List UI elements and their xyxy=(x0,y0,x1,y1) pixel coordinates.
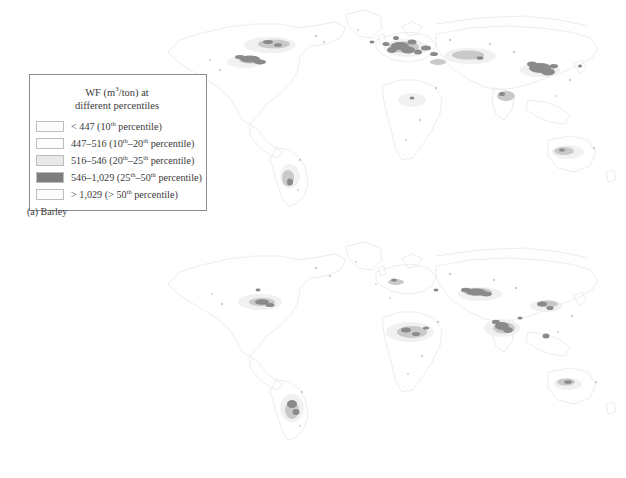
legend-label-tail2: percentile) xyxy=(148,156,194,167)
legend-label-tail: percentile) xyxy=(132,190,178,201)
map-wf-class-dark xyxy=(235,36,582,186)
legend-label-tail: percentile) xyxy=(116,122,162,133)
legend-title-suffix: /ton) at xyxy=(119,87,149,98)
world-map-barley xyxy=(150,0,626,210)
legend-label-tail2: percentile) xyxy=(156,173,202,184)
legend-label-text: < 447 (10 xyxy=(71,122,111,133)
legend-label-tail2: percentile) xyxy=(148,139,194,150)
map-wf-class-mid xyxy=(239,40,574,187)
legend-label-text: 447–516 (10 xyxy=(71,139,123,150)
figure-panel-cotton: WF (m3/ton) at different percentiles < 7… xyxy=(0,232,626,478)
world-map-barley-svg xyxy=(150,0,626,210)
legend-title-barley: WF (m3/ton) at different percentiles xyxy=(36,83,198,112)
legend-row: 516–546 (20th–25th percentile) xyxy=(36,152,198,169)
legend-label: < 447 (10th percentile) xyxy=(71,118,162,133)
legend-label: 546–1,029 (25th–50th percentile) xyxy=(71,169,202,184)
legend-rows-barley: < 447 (10th percentile) 447–516 (10th–20… xyxy=(36,118,198,203)
legend-title-prefix: WF (m xyxy=(85,87,115,98)
legend-label-text: > 1,029 (> 50 xyxy=(71,190,127,201)
map-landmasses-light xyxy=(168,242,616,440)
legend-swatch xyxy=(36,138,64,149)
map-landmasses-light xyxy=(168,10,616,206)
map-wf-class-dark xyxy=(255,278,572,415)
figure-panel-barley: WF (m3/ton) at different percentiles < 4… xyxy=(0,0,626,228)
legend-swatch xyxy=(36,172,64,183)
legend-label: 516–546 (20th–25th percentile) xyxy=(71,152,194,167)
legend-row: > 1,029 (> 50th percentile) xyxy=(36,186,198,203)
legend-barley: WF (m3/ton) at different percentiles < 4… xyxy=(29,74,207,211)
legend-swatch xyxy=(36,121,64,132)
world-map-cotton-svg xyxy=(150,232,626,447)
legend-label: > 1,029 (> 50th percentile) xyxy=(71,186,178,201)
legend-label-tail: –25 xyxy=(128,156,143,167)
legend-swatch xyxy=(36,155,64,166)
world-map-cotton xyxy=(150,232,626,447)
legend-title-line2: different percentiles xyxy=(75,100,159,111)
legend-row: < 447 (10th percentile) xyxy=(36,118,198,135)
legend-label-tail: –50 xyxy=(136,173,151,184)
legend-row: 546–1,029 (25th–50th percentile) xyxy=(36,169,198,186)
legend-label: 447–516 (10th–20th percentile) xyxy=(71,135,194,150)
legend-label-text: 546–1,029 (25 xyxy=(71,173,130,184)
legend-row: 447–516 (10th–20th percentile) xyxy=(36,135,198,152)
legend-label-text: 516–546 (20 xyxy=(71,156,123,167)
map-speckle-detail xyxy=(211,261,597,427)
legend-label-tail: –20 xyxy=(128,139,143,150)
panel-caption-barley: (a) Barley xyxy=(27,206,67,217)
legend-swatch xyxy=(36,189,64,200)
